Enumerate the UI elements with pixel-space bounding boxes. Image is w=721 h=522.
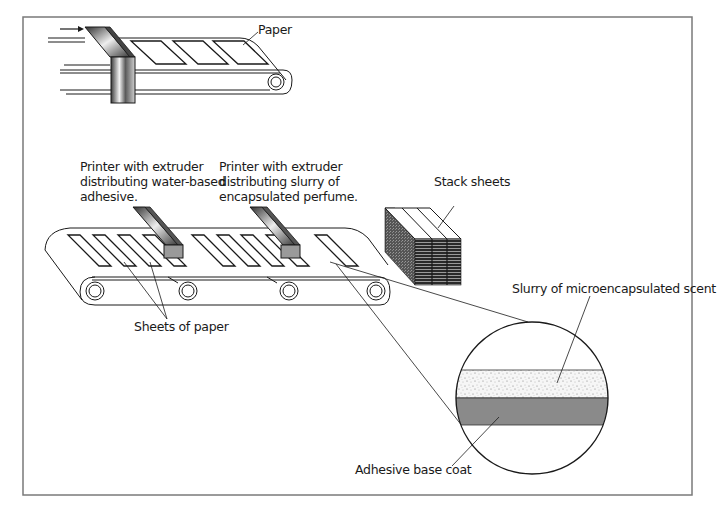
paper-label: Paper bbox=[258, 22, 292, 37]
printer-perfume-label-line2: distributing slurry of bbox=[219, 174, 339, 189]
adhesive-base-label: Adhesive base coat bbox=[355, 462, 471, 477]
cross-section-magnifier bbox=[450, 322, 620, 474]
printer-adhesive-label-line2: distributing water-based bbox=[80, 174, 225, 189]
sheets-of-paper-leaders bbox=[124, 262, 167, 319]
printer-perfume-label-line3: encapsulated perfume. bbox=[219, 189, 358, 204]
printer-adhesive-label-line3: adhesive. bbox=[80, 189, 138, 204]
sheets-of-paper-label: Sheets of paper bbox=[134, 319, 229, 334]
stack-sheets-label: Stack sheets bbox=[434, 174, 510, 189]
slurry-label: Slurry of microencapsulated scent bbox=[512, 281, 716, 296]
printer-adhesive-label-line1: Printer with extruder bbox=[80, 159, 203, 174]
diagram-svg bbox=[0, 0, 721, 522]
top-conveyor bbox=[48, 26, 292, 94]
adhesive-layer bbox=[450, 398, 620, 425]
sheets-of-paper-group bbox=[68, 235, 358, 266]
slurry-layer bbox=[450, 370, 620, 398]
diagram-canvas: Paper Printer with extruder distributing… bbox=[0, 0, 721, 522]
stacked-sheets-icon bbox=[385, 208, 461, 285]
printer-perfume-label-line1: Printer with extruder bbox=[219, 159, 342, 174]
